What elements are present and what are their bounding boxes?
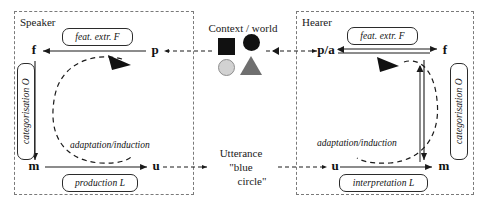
context-shape-square bbox=[218, 38, 235, 55]
speaker-feature-extraction-box: feat. extr. F bbox=[62, 28, 133, 46]
speaker-node-u: u bbox=[149, 158, 163, 174]
hearer-categorisation-label: categorisation O bbox=[454, 79, 464, 145]
utterance-text-line2: circle" bbox=[196, 174, 286, 188]
hearer-adaptation-label: adaptation/induction bbox=[317, 138, 397, 148]
hearer-categorisation-box: categorisation O bbox=[450, 63, 468, 160]
hearer-node-pa: p/a bbox=[313, 42, 339, 58]
utterance-block: Utterance "blue circle" bbox=[196, 146, 286, 188]
context-shape-triangle bbox=[240, 56, 262, 75]
utterance-label: Utterance bbox=[196, 146, 286, 160]
context-world-label: Context / world bbox=[203, 22, 283, 34]
diagram-canvas: p/a dashed ---------- --> utterance dash… bbox=[0, 0, 483, 204]
utterance-text-line1: "blue bbox=[196, 160, 286, 174]
speaker-node-f: f bbox=[27, 42, 41, 58]
hearer-feature-extraction-box: feat. extr. F bbox=[347, 27, 418, 45]
context-to-hearer-arrow bbox=[266, 47, 317, 55]
speaker-feature-extraction-label: feat. extr. F bbox=[75, 32, 120, 42]
context-shape-dark-circle bbox=[243, 34, 260, 51]
hearer-interpretation-label: interpretation L bbox=[353, 178, 415, 188]
hearer-node-m: m bbox=[436, 158, 452, 174]
hearer-categorisation-arrow bbox=[417, 60, 425, 162]
speaker-node-m: m bbox=[26, 158, 42, 174]
hearer-node-u: u bbox=[328, 158, 342, 174]
hearer-node-f: f bbox=[438, 42, 452, 58]
context-shape-light-circle bbox=[218, 59, 235, 76]
hearer-frame-title: Hearer bbox=[302, 16, 332, 28]
speaker-node-p: p bbox=[148, 42, 162, 58]
speaker-production-label: production L bbox=[75, 178, 125, 188]
hearer-feature-extraction-label: feat. extr. F bbox=[360, 31, 405, 41]
speaker-production-box: production L bbox=[62, 174, 138, 192]
speaker-frame-title: Speaker bbox=[20, 16, 55, 28]
speaker-categorisation-label: categorisation O bbox=[21, 79, 31, 145]
speaker-adaptation-label: adaptation/induction bbox=[70, 140, 150, 150]
speaker-categorisation-box: categorisation O bbox=[17, 63, 35, 160]
hearer-feature-extraction-arrow bbox=[337, 46, 437, 53]
hearer-interpretation-box: interpretation L bbox=[339, 174, 428, 192]
